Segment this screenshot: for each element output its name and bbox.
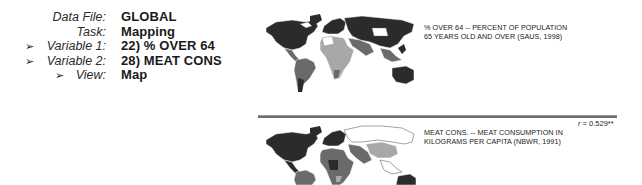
view-label: View: [76,68,106,82]
map-1-caption-line2: 65 YEARS OLD AND OVER (SAUS, 1998) [424,32,567,41]
row-variable-2: ➢ Variable 2: 28) MEAT CONS [0,54,250,69]
world-map-variable-1 [262,8,420,92]
variable-1-label: Variable 1: [47,39,106,53]
map-1-caption-line1: % OVER 64 -- PERCENT OF POPULATION [424,23,567,32]
arrow-icon: ➢ [55,68,64,82]
variable-1-value[interactable]: 22) % OVER 64 [121,39,215,53]
view-value[interactable]: Map [121,68,147,82]
map-separator [258,115,617,118]
map-2-caption: MEAT CONS. -- MEAT CONSUMPTION IN KILOGR… [424,128,563,146]
correlation-r-label: r [578,119,581,128]
task-value[interactable]: Mapping [121,25,175,39]
info-panel: Data File: GLOBAL Task: Mapping ➢ Variab… [0,10,250,83]
data-file-value[interactable]: GLOBAL [121,10,176,24]
map-1-caption: % OVER 64 -- PERCENT OF POPULATION 65 YE… [424,23,567,41]
row-view: ➢ View: Map [0,68,250,83]
correlation-r-value: = 0.529** [583,119,614,128]
task-label: Task: [77,25,106,39]
row-variable-1: ➢ Variable 1: 22) % OVER 64 [0,39,250,54]
arrow-icon: ➢ [25,39,34,53]
arrow-icon: ➢ [25,54,34,68]
world-map-variable-2 [262,120,420,185]
row-data-file: Data File: GLOBAL [0,10,250,25]
data-file-label: Data File: [53,10,107,24]
correlation-value: r = 0.529** [578,119,614,128]
map-2-caption-line1: MEAT CONS. -- MEAT CONSUMPTION IN [424,128,563,137]
row-task: Task: Mapping [0,25,250,40]
variable-2-label: Variable 2: [47,54,106,68]
map-2-caption-line2: KILOGRAMS PER CAPITA (NBWR, 1991) [424,137,563,146]
variable-2-value[interactable]: 28) MEAT CONS [121,54,222,68]
